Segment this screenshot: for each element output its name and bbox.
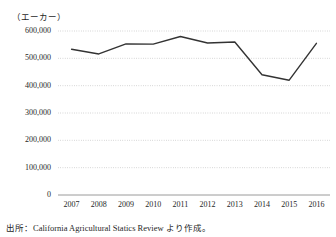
x-axis-tick-label: 2015 [281, 200, 297, 209]
x-axis-tick-label: 2013 [227, 200, 243, 209]
y-axis-tick-label: 500,000 [5, 53, 51, 62]
x-axis-tick-label: 2012 [200, 200, 216, 209]
x-axis-tick-label: 2016 [308, 200, 324, 209]
gridlines-group [58, 31, 330, 168]
y-axis-tick-label: 600,000 [5, 26, 51, 35]
y-axis-tick-label: 100,000 [5, 163, 51, 172]
x-axis-tick-label: 2008 [91, 200, 107, 209]
x-axis-tick-label: 2007 [64, 200, 80, 209]
x-axis-tick-label: 2009 [118, 200, 134, 209]
x-axis-tick-label: 2014 [254, 200, 270, 209]
y-axis-tick-label: 300,000 [5, 108, 51, 117]
x-axis-tick-label: 2011 [173, 200, 189, 209]
y-axis-tick-label: 200,000 [5, 135, 51, 144]
source-note: 出所：California Agricultural Statics Revie… [6, 221, 211, 233]
chart-figure: （エーカー） 0100,000200,000300,000400,000500,… [0, 0, 336, 237]
y-axis-tick-label: 0 [5, 190, 51, 199]
x-axis-tick-label: 2010 [145, 200, 161, 209]
y-axis-tick-label: 400,000 [5, 81, 51, 90]
